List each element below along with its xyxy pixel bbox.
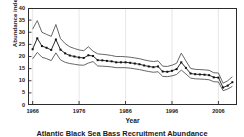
data-point-marker [73, 56, 75, 58]
y-tick-label: 0 [22, 102, 25, 108]
y-tick-label: 35 [19, 17, 25, 23]
y-axis-ticks: 0510152025303540 [6, 8, 25, 105]
data-point-marker [217, 77, 219, 79]
data-point-marker [129, 62, 131, 64]
y-tick-label: 10 [19, 77, 25, 83]
data-point-marker [60, 49, 62, 51]
x-tick-label: 1986 [119, 108, 131, 114]
data-point-marker [97, 59, 99, 61]
chart-canvas [28, 8, 237, 105]
y-tick-label: 20 [19, 53, 25, 59]
data-point-marker [143, 64, 145, 66]
data-point-marker [152, 66, 154, 68]
data-point-marker [111, 60, 113, 62]
data-point-marker [115, 61, 117, 63]
data-point-marker [166, 71, 168, 73]
data-point-marker [171, 70, 173, 72]
x-tick-label: 1996 [166, 108, 178, 114]
data-point-marker [41, 45, 43, 47]
plot-border [29, 9, 237, 105]
data-point-marker [194, 73, 196, 75]
x-tick-label: 2006 [212, 108, 224, 114]
data-point-marker [64, 52, 66, 54]
data-point-marker [227, 85, 229, 87]
data-point-marker [176, 68, 178, 70]
data-point-marker [213, 76, 215, 78]
data-point-marker [125, 61, 127, 63]
data-point-marker [162, 71, 164, 73]
x-tick-label: 1966 [26, 108, 38, 114]
y-tick-label: 25 [19, 41, 25, 47]
data-point-marker [83, 57, 85, 59]
data-point-marker [190, 72, 192, 74]
data-point-marker [138, 63, 140, 65]
data-point-marker [203, 74, 205, 76]
x-tick-marks [33, 101, 219, 105]
data-point-marker [69, 55, 71, 57]
y-tick-label: 40 [19, 5, 25, 11]
lower-bound-line [33, 52, 233, 90]
abundance-index-line [33, 38, 233, 87]
data-point-marker [87, 54, 89, 56]
figure-caption: Atlantic Black Sea Bass Recruitment Abun… [0, 129, 244, 137]
data-point-marker [120, 61, 122, 63]
data-point-marker [46, 47, 48, 49]
x-axis-ticks: 19661976198619962006 [28, 107, 237, 116]
data-point-marker [208, 74, 210, 76]
data-point-marker [148, 65, 150, 67]
data-point-marker [101, 59, 103, 61]
y-tick-label: 5 [22, 89, 25, 95]
chart-figure: Abundance index 0510152025303540 1966197… [0, 0, 244, 137]
data-point-marker [180, 61, 182, 63]
plot-area [28, 8, 237, 105]
data-point-marker [199, 73, 201, 75]
data-point-marker [134, 63, 136, 65]
data-point-marker [185, 67, 187, 69]
data-point-marker [231, 81, 233, 83]
y-tick-label: 30 [19, 29, 25, 35]
data-point-marker [157, 65, 159, 67]
data-point-marker [222, 87, 224, 89]
data-point-marker [92, 55, 94, 57]
x-tick-label: 1976 [73, 108, 85, 114]
y-tick-label: 15 [19, 65, 25, 71]
data-point-marker [55, 39, 57, 41]
x-axis-label: Year [28, 117, 237, 124]
data-point-marker [78, 56, 80, 58]
data-point-marker [50, 49, 52, 51]
data-point-marker [36, 37, 38, 39]
data-point-marker [32, 48, 34, 50]
data-point-marker [106, 60, 108, 62]
